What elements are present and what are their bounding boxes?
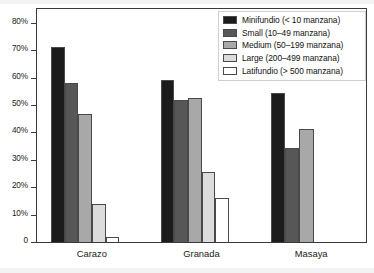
legend-item-label: Large (200–499 manzana): [242, 53, 340, 63]
legend-swatch-icon: [223, 54, 237, 62]
bar: [106, 237, 120, 242]
y-axis-tick-label: 50%: [12, 99, 28, 108]
x-axis: CarazoGranadaMasaya: [37, 248, 366, 266]
legend-swatch-icon: [223, 16, 237, 24]
bar: [215, 198, 229, 242]
bar-group: [51, 9, 119, 242]
bar-chart-figure: 010%20%30%40%50%60%70%80% CarazoGranadaM…: [0, 0, 374, 273]
legend-swatch-icon: [223, 29, 237, 37]
legend: Minifundio (< 10 manzana)Small (10–49 ma…: [218, 11, 366, 81]
y-axis-tick-label: 40%: [12, 126, 28, 135]
y-axis-tick-label: 10%: [12, 209, 28, 218]
y-axis-tick-label: 0: [24, 236, 28, 245]
y-axis: 010%20%30%40%50%60%70%80%: [0, 8, 36, 243]
legend-item-label: Minifundio (< 10 manzana): [242, 15, 340, 25]
bar: [202, 172, 216, 242]
bar: [65, 83, 79, 242]
legend-item-label: Medium (50–199 manzana): [242, 40, 343, 50]
legend-swatch-icon: [223, 41, 237, 49]
legend-swatch-icon: [223, 67, 237, 75]
scan-artifact-bottom: [0, 268, 374, 273]
y-axis-tick-label: 60%: [12, 72, 28, 81]
bar: [161, 80, 175, 242]
legend-item: Minifundio (< 10 manzana): [219, 14, 365, 27]
bar: [271, 93, 285, 242]
y-axis-tick-label: 70%: [12, 44, 28, 53]
legend-item: Large (200–499 manzana): [219, 52, 365, 65]
bar: [174, 100, 188, 242]
legend-item: Small (10–49 manzana): [219, 27, 365, 40]
x-axis-tick-label: Masaya: [256, 248, 366, 259]
x-axis-tick-label: Granada: [147, 248, 257, 259]
legend-item-label: Latifundio (> 500 manzana): [242, 66, 343, 76]
y-axis-tick-label: 80%: [12, 17, 28, 26]
bar: [188, 98, 202, 242]
bar: [92, 204, 106, 242]
x-axis-tick-label: Carazo: [37, 248, 147, 259]
bar: [51, 47, 65, 242]
scan-artifact-top: [0, 0, 374, 4]
legend-item: Medium (50–199 manzana): [219, 39, 365, 52]
bar: [299, 129, 313, 242]
legend-item: Latifundio (> 500 manzana): [219, 64, 365, 77]
y-axis-tick-label: 30%: [12, 154, 28, 163]
legend-item-label: Small (10–49 manzana): [242, 28, 330, 38]
y-axis-tick-label: 20%: [12, 181, 28, 190]
bar: [285, 148, 299, 242]
bar: [78, 114, 92, 242]
